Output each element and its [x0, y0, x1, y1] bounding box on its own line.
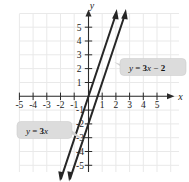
x-tick-label--5: -5 [15, 100, 23, 110]
y-tick-label-4: 4 [77, 36, 82, 46]
callout2-eq: = [133, 63, 143, 73]
x-tick-label-2: 2 [114, 100, 119, 110]
y-tick-label-3: 3 [77, 50, 82, 60]
x-axis-label: x [177, 91, 183, 102]
callout-line-1-label: y = 3x [25, 126, 48, 136]
coordinate-graph: -5 -4 -3 -2 -1 1 2 3 4 5 5 4 3 2 1 -1 -2… [0, 0, 189, 182]
callout-line-2-label: y = 3x − 2 [128, 63, 166, 73]
x-tick-label-4: 4 [141, 100, 146, 110]
figure-canvas: -5 -4 -3 -2 -1 1 2 3 4 5 5 4 3 2 1 -1 -2… [0, 0, 189, 182]
y-tick-label-2: 2 [77, 64, 82, 74]
y-tick-label-5: 5 [77, 23, 82, 33]
callout2-constant: 2 [161, 63, 166, 73]
x-tick-label-1: 1 [100, 100, 105, 110]
x-tick-label--2: -2 [57, 100, 65, 110]
callout2-rest: − [151, 63, 161, 73]
callout-line-2[interactable]: y = 3x − 2 [114, 59, 186, 76]
x-tick-label--4: -4 [29, 100, 37, 110]
x-tick-label-3: 3 [127, 100, 132, 110]
x-tick-label-5: 5 [155, 100, 160, 110]
callout1-eq: = [30, 126, 40, 136]
x-tick-label--3: -3 [43, 100, 51, 110]
callout1-var: x [43, 126, 48, 136]
y-tick-label-1: 1 [77, 78, 82, 88]
y-axis-label: y [89, 0, 95, 11]
y-tick-label--5: -5 [76, 161, 84, 171]
